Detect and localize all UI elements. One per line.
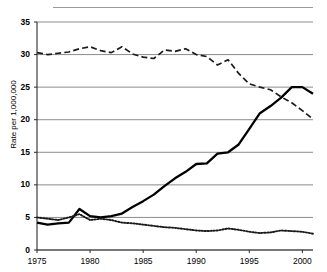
y-tick-label-15: 15 <box>6 148 30 157</box>
x-tick-label-1985: 1985 <box>123 256 163 266</box>
x-tick-label-1990: 1990 <box>176 256 216 266</box>
y-tick-label-30: 30 <box>6 50 30 59</box>
y-tick-label-5: 5 <box>6 213 30 222</box>
x-tick-label-1995: 1995 <box>229 256 269 266</box>
y-tick-label-20: 20 <box>6 115 30 124</box>
x-tick-label-1980: 1980 <box>70 256 110 266</box>
x-tick-label-2000: 2000 <box>282 256 322 266</box>
series-line-solid-series <box>37 87 313 224</box>
header-rule <box>53 7 313 8</box>
y-tick-label-10: 10 <box>6 180 30 189</box>
figure-container: Rate per 1,000,000 05101520253035 197519… <box>0 0 327 272</box>
plot-area <box>0 0 327 272</box>
series-line-dashed-series <box>37 47 313 119</box>
y-tick-label-0: 0 <box>6 246 30 255</box>
x-tick-label-1975: 1975 <box>17 256 57 266</box>
y-tick-label-35: 35 <box>6 18 30 27</box>
y-tick-label-25: 25 <box>6 83 30 92</box>
